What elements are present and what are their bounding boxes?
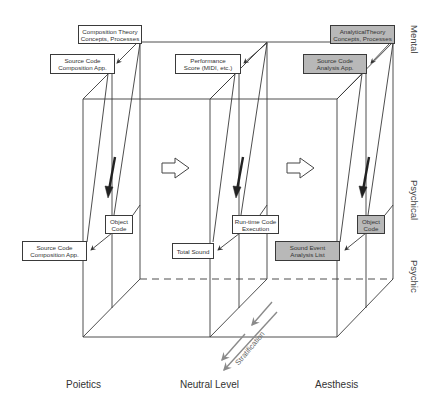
source-code-composition-box-psychic: Source Code Composition App. bbox=[22, 241, 87, 261]
source-code-analysis-box: Source Code Analysis App. bbox=[303, 54, 367, 74]
box-line: Sound Event bbox=[290, 244, 325, 251]
box-line: Object bbox=[362, 218, 380, 225]
level-label-psychic: Psychic bbox=[409, 260, 420, 293]
box-line: Concepts, Processes bbox=[81, 35, 139, 42]
level-label-mental: Mental bbox=[409, 25, 420, 54]
box-line: Composition App. bbox=[30, 251, 79, 258]
box-line: Composition Theory bbox=[82, 28, 137, 35]
box-line: Concepts, Processes bbox=[333, 35, 391, 42]
box-line: Source Code bbox=[64, 57, 100, 64]
box-line: AnalyticalTheory bbox=[340, 28, 386, 35]
source-code-composition-box-mental: Source Code Composition App. bbox=[50, 54, 115, 74]
total-sound-box: Total Sound bbox=[172, 243, 214, 259]
box-line: Source Code bbox=[36, 244, 72, 251]
column-label-poietics: Poietics bbox=[66, 379, 101, 390]
object-code-box-poietics: Object Code bbox=[105, 215, 133, 234]
box-line: Analysis App. bbox=[316, 64, 353, 71]
box-line: Code bbox=[364, 225, 379, 232]
box-line: Code bbox=[112, 225, 127, 232]
sound-event-analysis-box: Sound Event Analysis List bbox=[275, 241, 340, 261]
column-label-aesthesis: Aesthesis bbox=[315, 379, 358, 390]
box-line: Run-time Code bbox=[235, 218, 277, 225]
box-line: Source Code bbox=[317, 57, 353, 64]
composition-theory-box: Composition Theory Concepts, Processes bbox=[78, 25, 142, 44]
box-line: Performance bbox=[190, 57, 225, 64]
analytical-theory-box: AnalyticalTheory Concepts, Processes bbox=[330, 25, 395, 44]
box-line: Score (MIDI, etc.) bbox=[184, 64, 232, 71]
object-code-box-aesthesis: Object Code bbox=[357, 215, 385, 234]
performance-score-box: Performance Score (MIDI, etc.) bbox=[175, 54, 241, 74]
level-label-psychical: Psychical bbox=[409, 180, 420, 220]
box-line: Analysis List bbox=[290, 251, 324, 258]
column-label-neutral-level: Neutral Level bbox=[180, 379, 239, 390]
box-line: Composition App. bbox=[58, 64, 107, 71]
box-line: Total Sound bbox=[177, 248, 210, 255]
box-line: Object bbox=[110, 218, 128, 225]
runtime-code-execution-box: Run-time Code Execution bbox=[232, 215, 279, 234]
box-line: Execution bbox=[242, 225, 269, 232]
